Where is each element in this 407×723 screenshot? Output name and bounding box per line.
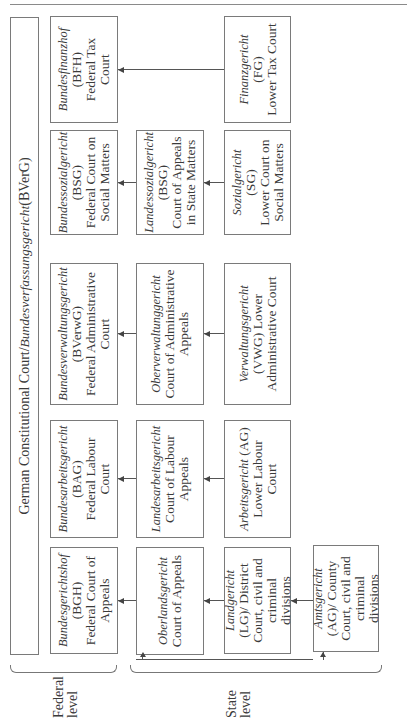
- arrow-head-icon: [118, 476, 124, 482]
- federal-court-bag: Bundesarbeitsgericht (BAG) Federal Labou…: [50, 420, 118, 538]
- court-english-name: Lower Labour Court: [251, 425, 279, 533]
- state-appeal-court-olg: Oberlandsgericht Court of Appeals: [136, 547, 204, 655]
- state-lower-court-vwg: Verwaltungsgericht (VWG) Lower Administr…: [224, 263, 291, 405]
- court-english-name: Federal Administrative Court: [84, 268, 112, 400]
- court-german-name: Bundessozialgericht: [56, 132, 70, 233]
- arrow-head-icon: [204, 598, 210, 604]
- court-english-name: Federal Court of Appeals: [84, 552, 112, 649]
- court-abbr: (BSG): [70, 165, 84, 200]
- court-english-name: (LG)/ District Court, civil and criminal…: [237, 552, 293, 649]
- county-court-amtsgericht: Amtsgericht (AG)/ County Court, civil an…: [313, 545, 379, 652]
- federal-level-brace: [10, 665, 117, 673]
- constitutional-court-label: German Constitutional Court/: [18, 347, 32, 514]
- court-german-name: Arbeitsgericht: [237, 459, 251, 531]
- court-abbr: (BSG): [156, 165, 170, 200]
- arrow-head-icon: [118, 180, 124, 186]
- court-german-name: Bundesarbeitsgericht: [56, 426, 70, 533]
- state-level-label: State level: [225, 678, 253, 718]
- court-german-name: Oberverwaltunggericht: [149, 275, 163, 392]
- state-lower-court-lg: Landgericht (LG)/ District Court, civil …: [224, 547, 291, 654]
- court-german-name: Bundesverwaltungsgericht: [56, 267, 70, 400]
- arrow-head-icon: [118, 598, 124, 604]
- state-appeal-court-ovg: Oberverwaltunggericht Court of Administr…: [136, 263, 204, 405]
- court-english-name: (AG)/ County Court, civil and criminal d…: [325, 550, 381, 647]
- court-abbr: (BAG): [70, 460, 84, 498]
- constitutional-court-box: German Constitutional Court/Bundesverfas…: [10, 17, 39, 655]
- court-english-name: Court of Appeals: [170, 555, 184, 647]
- appeal-bypass-line: [136, 659, 313, 660]
- court-german-name: Landessozialgericht: [142, 132, 156, 233]
- court-german-name: Bundesfinanzhof: [56, 28, 70, 111]
- court-english-name: (VWG) Lower Administrative Court: [251, 268, 279, 400]
- state-lower-court-fg: Finanzgericht (FG) Lower Tax Court: [224, 16, 291, 123]
- constitutional-court-abbr: (BVerG): [18, 157, 32, 205]
- arrow-head-icon: [118, 331, 124, 337]
- federal-level-label: Federal level: [52, 678, 80, 718]
- arrow-head-icon: [204, 180, 210, 186]
- arrow-head-icon: [118, 67, 124, 73]
- state-appeal-court-lag: Landesarbeitsgericht Court of Labour App…: [136, 420, 204, 538]
- court-german-name: Bundesgerichtshof: [56, 554, 70, 647]
- court-structure-diagram: German Constitutional Court/Bundesverfas…: [0, 0, 407, 723]
- court-english-name: Lower Tax Court: [265, 23, 279, 116]
- federal-court-bsg: Bundessozialgericht (BSG) Federal Court …: [50, 130, 118, 235]
- state-appeal-court-lsg: Landessozialgericht (BSG) Court of Appea…: [136, 130, 204, 235]
- court-english-name: Court of Labour Appeals: [163, 425, 191, 533]
- court-english-name: Court of Appeals in State Matters: [170, 135, 198, 230]
- court-abbr: (BVerwG): [70, 306, 84, 362]
- state-level-brace: [130, 665, 382, 673]
- arrow-head-icon: [320, 652, 326, 657]
- state-lower-court-sg: Sozialgericht (SG) Lower Court on Social…: [224, 130, 291, 235]
- arrow-head-icon: [140, 652, 146, 657]
- state-level-text: State level: [224, 690, 253, 718]
- court-german-name: Verwaltungsgericht: [237, 285, 251, 382]
- court-abbr: (BGH): [70, 582, 84, 620]
- court-abbr: (FG): [251, 56, 265, 82]
- court-german-name: Finanzgericht: [237, 34, 251, 104]
- appeal-line-fg-bfh: [118, 69, 224, 70]
- court-english-name: Lower Court on Social Matters: [258, 135, 286, 230]
- federal-court-bfh: Bundesfinanzhof (BFH) Federal Tax Court: [50, 16, 118, 123]
- court-english-name: Federal Labour Court: [84, 425, 112, 533]
- court-german-name: Landgericht: [223, 570, 237, 631]
- federal-court-bgh: Bundesgerichtshof (BGH) Federal Court of…: [50, 547, 118, 654]
- court-abbr: (SG): [244, 169, 258, 195]
- arrow-head-icon: [204, 476, 210, 482]
- court-abbr: (AG): [236, 427, 251, 459]
- court-german-name: Amtsgericht: [311, 568, 325, 628]
- arrow-head-icon: [291, 598, 297, 604]
- arrow-head-icon: [204, 331, 210, 337]
- court-abbr: (BFH): [70, 52, 84, 87]
- court-english-name: Federal Tax Court: [84, 21, 112, 118]
- court-german-name: Sozialgericht: [230, 150, 244, 216]
- state-lower-court-ag: Arbeitsgericht (AG) Lower Labour Court: [224, 420, 291, 538]
- court-english-name: Court of Administrative Appeals: [163, 268, 191, 400]
- court-german-name: Landesarbeitsgericht: [149, 426, 163, 532]
- court-english-name: Federal Court on Social Matters: [84, 135, 112, 230]
- federal-court-bverwg: Bundesverwaltungsgericht (BVerwG) Federa…: [50, 263, 118, 405]
- constitutional-court-german-name: Bundesverfassungsgericht: [18, 206, 32, 348]
- court-german-name: Oberlandsgericht: [156, 557, 170, 645]
- federal-level-text: Federal level: [51, 676, 80, 718]
